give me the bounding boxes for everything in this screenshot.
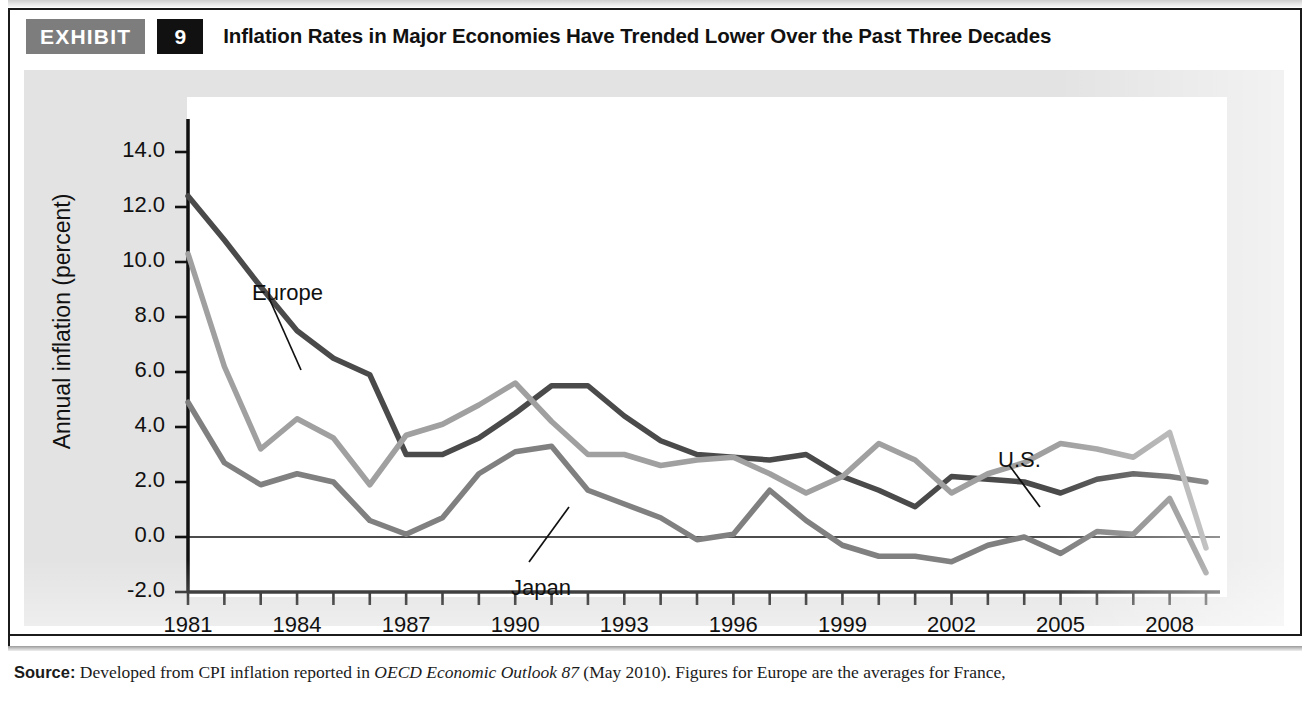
source-text-2: (May 2010). Figures for Europe are the a… [579, 662, 1006, 682]
source-citation: OECD Economic Outlook 87 [374, 662, 579, 682]
y-tick-label: 14.0 [91, 137, 165, 163]
y-tick-label: 2.0 [91, 467, 165, 493]
x-tick-label: 1984 [252, 612, 342, 638]
x-tick-label: 1981 [143, 612, 233, 638]
exhibit-frame: EXHIBIT 9 Inflation Rates in Major Econo… [8, 8, 1302, 636]
series-annotation-japan: Japan [511, 575, 571, 601]
series-annotation-us: U.S. [998, 447, 1041, 473]
exhibit-tag-label: EXHIBIT [26, 19, 145, 54]
x-tick-label: 2008 [1125, 612, 1215, 638]
y-tick-label: 10.0 [91, 247, 165, 273]
y-tick-label: 4.0 [91, 412, 165, 438]
line-chart [24, 70, 1284, 626]
series-annotation-europe: Europe [252, 280, 323, 306]
source-note: Source: Developed from CPI inflation rep… [14, 662, 1300, 683]
y-tick-label: -2.0 [91, 577, 165, 603]
exhibit-header: EXHIBIT 9 Inflation Rates in Major Econo… [10, 10, 1300, 62]
x-tick-label: 2005 [1016, 612, 1106, 638]
source-prefix: Source: [14, 663, 75, 681]
x-tick-label: 1996 [688, 612, 778, 638]
x-tick-label: 1987 [361, 612, 451, 638]
exhibit-title: Inflation Rates in Major Economies Have … [223, 24, 1051, 48]
exhibit-number-badge: 9 [157, 19, 203, 54]
x-tick-label: 1990 [470, 612, 560, 638]
x-tick-label: 1993 [579, 612, 669, 638]
y-tick-label: 8.0 [91, 302, 165, 328]
source-text-1: Developed from CPI inflation reported in [75, 662, 374, 682]
frame-top-shadow [8, 0, 1302, 7]
x-tick-label: 1999 [797, 612, 887, 638]
source-divider [8, 646, 1302, 651]
y-axis-label: Annual inflation (percent) [49, 132, 76, 512]
exhibit-page: EXHIBIT 9 Inflation Rates in Major Econo… [0, 0, 1310, 706]
y-tick-label: 12.0 [91, 192, 165, 218]
y-tick-label: 0.0 [91, 522, 165, 548]
x-tick-label: 2002 [907, 612, 997, 638]
chart-panel: Annual inflation (percent) -2.00.02.04.0… [24, 70, 1284, 626]
y-tick-label: 6.0 [91, 357, 165, 383]
